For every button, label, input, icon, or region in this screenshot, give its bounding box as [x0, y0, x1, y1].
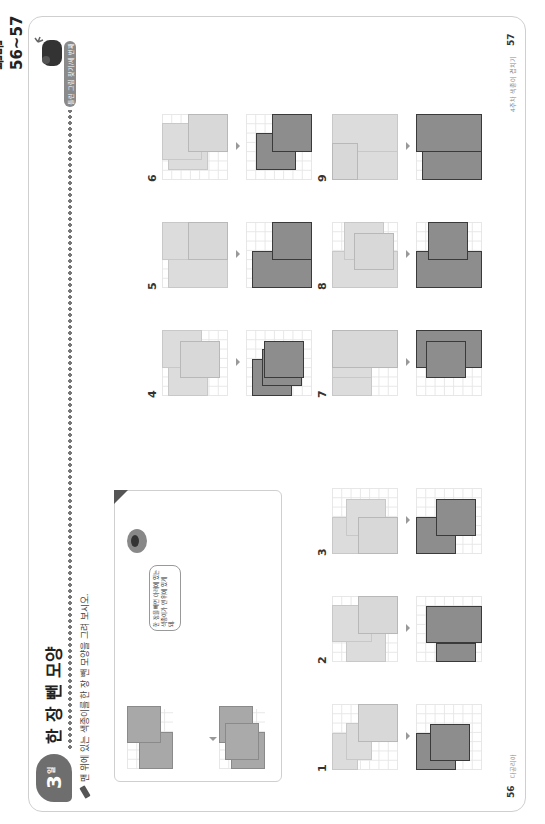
arrow-icon [406, 732, 410, 740]
paper-sheet [358, 517, 398, 554]
mascot-icon [123, 525, 149, 557]
paper-sheet [358, 704, 398, 742]
badge-number: 3 [42, 775, 66, 789]
example-after-grid [127, 709, 173, 769]
lesson-title: 한 장 뺀 모양 [40, 646, 65, 744]
footer-left-page: 56 [506, 785, 516, 798]
problem-before-grid [332, 704, 398, 770]
arrow-icon [209, 737, 217, 741]
arrow-icon [236, 142, 240, 150]
problem-answer-grid[interactable] [246, 222, 312, 288]
problem-number: 2 [316, 656, 329, 664]
arrow-icon [406, 624, 410, 632]
workbook-page: 3 일 한 장 뺀 모양 틀린 그림 찾기/세 번째 맨 위에 있는 색종이를 … [28, 16, 526, 812]
problem-before-grid [332, 488, 398, 554]
paper-sheet [354, 233, 394, 270]
problem-before-grid [162, 222, 228, 288]
paper-sheet [180, 341, 220, 378]
problem-number: 7 [316, 390, 329, 398]
paper-sheet [358, 596, 398, 634]
problem-before-grid [332, 114, 398, 180]
problem-answer-grid[interactable] [416, 222, 482, 288]
problem-answer-grid[interactable] [416, 488, 482, 554]
answer-sheet [436, 499, 476, 536]
footer-left-text: 다공리아 [508, 754, 517, 778]
arrow-icon [236, 250, 240, 258]
problem-answer-grid[interactable] [246, 114, 312, 180]
problem-before-grid [162, 114, 228, 180]
answer-sheet [430, 724, 470, 761]
answer-sheet [272, 114, 312, 152]
arrow-icon [406, 516, 410, 524]
instruction-text: 맨 위에 있는 색종이를 한 장 뺀 모양을 그려 보시오. [78, 593, 91, 782]
answer-sheet [416, 114, 482, 152]
paper-sheet [188, 222, 228, 260]
mascot-icon [34, 34, 64, 72]
problem-number: 6 [146, 174, 159, 182]
problem-answer-grid[interactable] [246, 330, 312, 396]
speech-bubble: 한 장을 빼면 아래에 있는 색종이가 맨 위에 있게 돼. [149, 565, 181, 631]
problem-before-grid [332, 330, 398, 396]
paper-sheet [188, 114, 228, 152]
problem-number: 4 [146, 390, 159, 398]
instruction: 맨 위에 있는 색종이를 한 장 뺀 모양을 그려 보시오. [78, 593, 91, 798]
paper-sheet [332, 330, 398, 368]
dotted-divider [68, 110, 72, 750]
arrow-icon [406, 250, 410, 258]
problem-number: 8 [316, 282, 329, 290]
footer-right-page: 57 [506, 33, 516, 46]
example-before-grid [219, 709, 265, 769]
lesson-badge: 3 일 [36, 754, 72, 802]
problem-answer-grid[interactable] [416, 596, 482, 662]
problem-before-grid [332, 596, 398, 662]
footer-right-text: 4주차 색종이 겹치기 [508, 56, 517, 112]
badge-unit: 일 [45, 767, 56, 774]
answer-sheet [426, 606, 482, 643]
problem-answer-grid[interactable] [416, 114, 482, 180]
lesson-tag: 틀린 그림 찾기/세 번째 [64, 41, 76, 107]
problem-number: 9 [316, 174, 329, 182]
problem-number: 5 [146, 282, 159, 290]
answer-sheet [264, 341, 304, 378]
answer-sheet [426, 341, 466, 378]
answer-sheet [436, 643, 476, 662]
page-curl-icon [114, 490, 128, 504]
pencil-icon [79, 785, 90, 798]
paper-sheet [332, 143, 358, 180]
example-box: 한 장을 빼면 아래에 있는 색종이가 맨 위에 있게 돼. [114, 490, 282, 782]
problem-answer-grid[interactable] [416, 704, 482, 770]
answer-sheet [272, 222, 312, 260]
problem-answer-grid[interactable] [416, 330, 482, 396]
arrow-icon [406, 142, 410, 150]
arrow-icon [236, 358, 240, 366]
problem-before-grid [332, 222, 398, 288]
problem-number: 3 [316, 548, 329, 556]
arrow-icon [406, 358, 410, 366]
problem-number: 1 [316, 764, 329, 772]
problem-before-grid [162, 330, 228, 396]
answer-sheet [428, 222, 468, 260]
